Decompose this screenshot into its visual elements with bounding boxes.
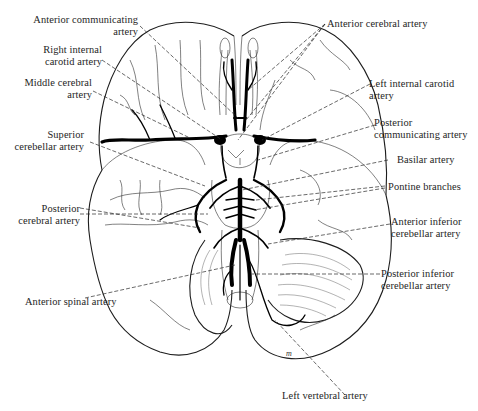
- brain-artery-diagram: m Anterior communicating artery Right in…: [0, 0, 478, 411]
- label-basilar-artery: Basilar artery: [397, 154, 455, 166]
- label-pontine-branches: Pontine branches: [388, 181, 461, 193]
- label-anterior-communicating-artery: Anterior communicating artery: [26, 14, 138, 38]
- label-posterior-communicating-artery: Posterior communicating artery: [374, 117, 467, 141]
- leader-lines: [80, 24, 390, 395]
- label-left-vertebral-artery: Left vertebral artery: [282, 390, 368, 402]
- label-middle-cerebral-artery: Middle cerebral artery: [10, 77, 92, 101]
- label-posterior-inferior-cerebellar-artery: Posterior inferior cerebellar artery: [381, 268, 454, 292]
- label-posterior-cerebral-artery: Posterior cerebral artery: [0, 203, 80, 227]
- label-right-internal-carotid-artery: Right internal carotid artery: [20, 44, 102, 68]
- label-anterior-inferior-cerebellar-artery: Anterior inferior cerebellar artery: [391, 216, 462, 240]
- label-superior-cerebellar-artery: Superior cerebellar artery: [0, 129, 84, 153]
- label-anterior-spinal-artery: Anterior spinal artery: [25, 296, 117, 308]
- artist-signature: m: [286, 349, 292, 358]
- label-anterior-cerebral-artery: Anterior cerebral artery: [327, 18, 427, 30]
- label-left-internal-carotid-artery: Left internal carotid artery: [369, 78, 454, 102]
